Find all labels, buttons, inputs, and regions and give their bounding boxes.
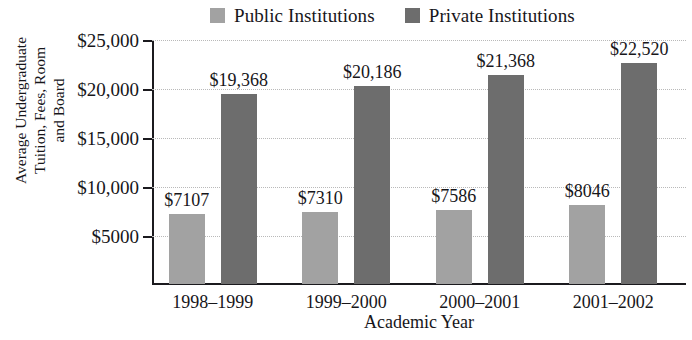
y-tick-label: $25,000 [77, 31, 139, 50]
bar-value-label: $20,186 [343, 63, 402, 81]
legend-swatch-private-icon [405, 8, 420, 23]
bar: $7310 [302, 212, 338, 284]
y-axis-tick [143, 89, 152, 91]
x-tick-label: 2000–2001 [439, 293, 520, 311]
bar: $22,520 [621, 63, 657, 284]
y-tick-label: $5000 [92, 227, 140, 246]
legend-swatch-public-icon [210, 8, 225, 23]
y-tick-label: $20,000 [77, 80, 139, 99]
chart-legend: Public Institutions Private Institutions [210, 2, 575, 28]
legend-item-public: Public Institutions [210, 6, 375, 25]
bar: $20,186 [354, 86, 390, 284]
bar-value-label: $7107 [164, 191, 209, 209]
bar: $7107 [169, 214, 205, 284]
x-tick-label: 1998–1999 [172, 293, 253, 311]
legend-label-public: Public Institutions [234, 6, 375, 25]
bar: $8046 [569, 205, 605, 284]
bar-value-label: $19,368 [210, 71, 269, 89]
y-axis-title: Average Undergraduate Tuition, Fees, Roo… [11, 0, 68, 236]
bar-value-label: $7586 [431, 187, 476, 205]
y-tick-label: $15,000 [77, 129, 139, 148]
legend-label-private: Private Institutions [429, 6, 575, 25]
y-axis-tick [143, 138, 152, 140]
y-axis-tick [143, 236, 152, 238]
y-tick-label: $10,000 [77, 178, 139, 197]
bar-value-label: $7310 [298, 189, 343, 207]
bar: $19,368 [221, 94, 257, 284]
x-tick-label: 1999–2000 [306, 293, 387, 311]
chart-figure: Public Institutions Private Institutions… [0, 0, 692, 340]
bar: $21,368 [488, 75, 524, 284]
y-axis-tick [143, 40, 152, 42]
y-axis-line [152, 40, 154, 285]
x-axis-title: Academic Year [152, 313, 686, 331]
legend-item-private: Private Institutions [405, 6, 575, 25]
x-tick-label: 2001–2002 [573, 293, 654, 311]
y-axis-tick [143, 187, 152, 189]
bar-value-label: $21,368 [477, 52, 536, 70]
y-axis-title-line-2: Tuition, Fees, Room [30, 0, 49, 236]
y-axis-title-line-1: Average Undergraduate [11, 0, 30, 236]
gridline [152, 40, 686, 42]
bar-value-label: $8046 [565, 182, 610, 200]
plot-area: $5000$10,000$15,000$20,000$25,000 $7107$… [152, 40, 686, 285]
bar: $7586 [436, 210, 472, 284]
y-axis-title-line-3: and Board [49, 0, 68, 236]
bar-value-label: $22,520 [610, 40, 669, 58]
